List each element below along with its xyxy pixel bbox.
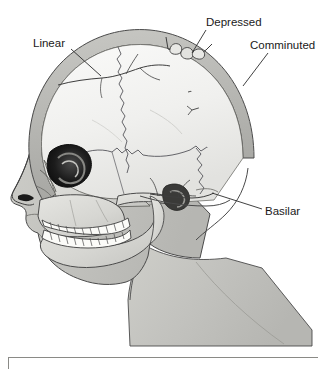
soft-tissue-profile xyxy=(128,244,312,346)
leader-comminuted xyxy=(243,53,268,86)
skull-fracture-figure: Linear Depressed Comminuted Basilar xyxy=(0,0,326,369)
label-linear: Linear xyxy=(33,37,65,49)
label-basilar: Basilar xyxy=(265,205,300,217)
leader-basilar xyxy=(212,193,262,209)
label-comminuted: Comminuted xyxy=(250,39,315,51)
orbit xyxy=(47,145,91,188)
skull-illustration: Linear Depressed Comminuted Basilar xyxy=(0,0,326,369)
caption-box xyxy=(8,358,318,369)
label-depressed: Depressed xyxy=(206,16,262,28)
